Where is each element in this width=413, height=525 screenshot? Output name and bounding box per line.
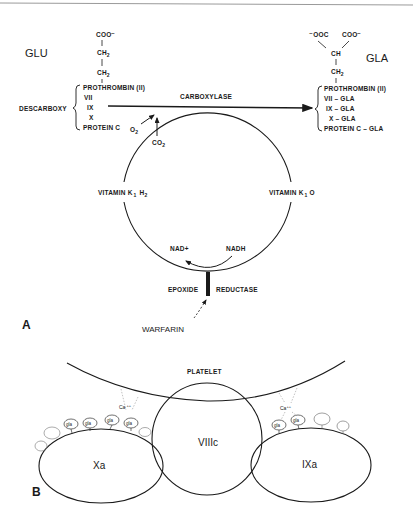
- right-protein-x: X – GLA: [329, 115, 356, 122]
- gla-ch: CH: [331, 50, 341, 57]
- gla-ch2: CH2: [331, 68, 344, 77]
- nadh-label: NADH: [226, 245, 246, 252]
- vitamin-k-cycle-figure: GLU COO⁻ CH2 CH2 DESCARBOXY PROTHROMBIN …: [0, 0, 413, 525]
- warfarin-inhibition-arrow: [194, 300, 206, 318]
- vitamin-k1-o-label: VITAMIN K1O: [269, 189, 315, 198]
- gla-ooc: ⁻OOC: [309, 31, 329, 38]
- glu-ch2-a: CH2: [97, 49, 110, 58]
- gla-label-6: gla: [293, 418, 300, 423]
- platelet-label: PLATELET: [187, 368, 222, 375]
- o2-arrow: [141, 115, 154, 124]
- right-protein-prothrombin: PROTHROMBIN (II): [324, 85, 386, 93]
- gla-coo: COO⁻: [342, 31, 362, 38]
- factor-ixa-label: IXa: [302, 459, 317, 470]
- cycle-circle-top: [124, 113, 291, 182]
- xa-gla-domains: [35, 415, 151, 451]
- factor-xa-label: Xa: [93, 460, 106, 471]
- carboxylase-label: CARBOXYLASE: [180, 93, 233, 100]
- top-rule: [0, 3, 413, 5]
- carboxylase-arrow: [108, 106, 312, 108]
- vitamin-k1-h2-label: VITAMIN K1H2: [98, 189, 147, 198]
- right-protein-c: PROTEIN C – GLA: [324, 125, 383, 132]
- left-protein-vii: VII: [84, 94, 93, 101]
- nadh-to-nad-arrow: [186, 256, 232, 267]
- gla-label-5: gla: [274, 423, 281, 428]
- gla-label-2: gla: [85, 421, 92, 426]
- gla-brace: [315, 86, 322, 131]
- o2-label: O2: [130, 126, 138, 135]
- left-protein-x: X: [89, 114, 94, 121]
- reductase-label: REDUCTASE: [216, 286, 258, 293]
- cycle-circle-bottom: [124, 202, 291, 271]
- panel-b-label: B: [32, 485, 41, 499]
- calcium-left-label: Ca++: [119, 403, 132, 410]
- glu-coo: COO⁻: [96, 31, 116, 38]
- epoxide-reductase-bar: [206, 272, 210, 296]
- platelet-membrane: [67, 361, 345, 401]
- nad-label: NAD+: [170, 245, 189, 252]
- ixa-gla-domains: [272, 413, 349, 434]
- panel-a-label: A: [22, 318, 31, 332]
- glu-label: GLU: [25, 47, 48, 59]
- glu-ch2-b: CH2: [97, 69, 110, 78]
- gla-label: GLA: [366, 52, 389, 64]
- gla-label-4: gla: [126, 421, 133, 426]
- calcium-right-label: Ca++: [280, 404, 292, 411]
- gla-label-1: gla: [66, 422, 73, 427]
- epoxide-label: EPOXIDE: [168, 286, 199, 293]
- co2-label: CO2: [152, 139, 165, 148]
- left-protein-c: PROTEIN C: [83, 124, 120, 131]
- right-protein-ix: IX – GLA: [326, 105, 355, 112]
- gla-label-3: gla: [107, 418, 114, 423]
- descarboxy-brace: [73, 85, 80, 130]
- warfarin-label: WARFARIN: [142, 325, 184, 334]
- left-protein-prothrombin: PROTHROMBIN (II): [83, 84, 145, 92]
- factor-viiic-label: VIIIc: [198, 437, 218, 448]
- descarboxy-label: DESCARBOXY: [19, 105, 67, 112]
- left-protein-ix: IX: [87, 104, 94, 111]
- right-protein-vii: VII – GLA: [324, 95, 355, 102]
